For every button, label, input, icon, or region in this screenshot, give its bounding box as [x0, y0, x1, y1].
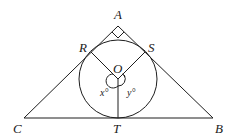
right-angle-marker	[112, 32, 124, 38]
geometry-diagram: A R S O C T B x° y°	[0, 0, 232, 140]
label-A: A	[113, 7, 122, 22]
label-T: T	[113, 121, 121, 136]
label-C: C	[13, 121, 22, 136]
label-O: O	[113, 61, 123, 76]
label-R: R	[78, 40, 87, 55]
angle-arc-y	[118, 75, 125, 86]
side-AC	[24, 26, 118, 118]
label-S: S	[148, 40, 155, 55]
side-AB	[118, 26, 213, 118]
label-B: B	[215, 121, 223, 136]
angle-arc-x	[106, 74, 118, 88]
angle-label-x: x°	[99, 87, 108, 98]
angle-label-y: y°	[126, 87, 135, 98]
arrow-head-y	[122, 74, 125, 77]
